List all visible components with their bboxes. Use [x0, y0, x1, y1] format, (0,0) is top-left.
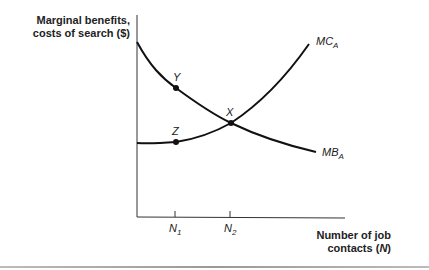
point-x — [228, 120, 234, 126]
x-axis-label: Number of job contacts (N) — [316, 229, 391, 255]
tick-label-n1: N1 — [169, 222, 181, 237]
x-axis-label-pre: contacts ( — [327, 242, 379, 254]
mc-label: MCA — [316, 35, 338, 50]
mb-curve — [137, 42, 316, 152]
x-axis — [137, 217, 345, 218]
x-axis-label-line2: contacts (N) — [316, 242, 391, 255]
mb-label-main: MB — [322, 146, 339, 158]
point-label-y: Y — [173, 71, 181, 83]
tick-label-n2: N2 — [224, 222, 237, 237]
tick-label-n2-sub: 2 — [231, 228, 237, 237]
mc-label-main: MC — [316, 35, 333, 47]
bottom-divider — [0, 266, 429, 268]
point-label-x: X — [225, 106, 234, 118]
x-axis-label-line1: Number of job — [316, 229, 391, 242]
mc-curve — [137, 44, 309, 143]
mb-label: MBA — [322, 146, 344, 161]
tick-label-n1-main: N — [169, 222, 177, 234]
mc-label-sub: A — [332, 41, 338, 50]
point-y — [173, 85, 179, 91]
point-label-z: Z — [171, 125, 180, 137]
tick-label-n1-sub: 1 — [177, 228, 181, 237]
point-z — [173, 139, 179, 145]
x-axis-label-post: ) — [387, 242, 391, 254]
mb-label-sub: A — [338, 152, 344, 161]
tick-label-n2-main: N — [224, 222, 232, 234]
